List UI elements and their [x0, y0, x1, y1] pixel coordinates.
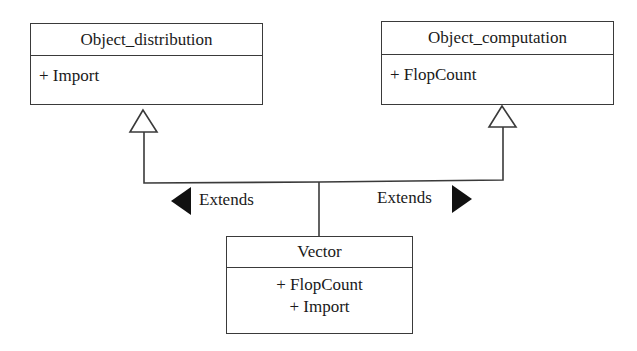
- generalization-line-left: [144, 132, 319, 183]
- generalization-line-right: [319, 127, 503, 182]
- class-members: + Import: [31, 56, 262, 86]
- relation-label-left: Extends: [199, 190, 254, 210]
- class-member: + FlopCount: [235, 274, 404, 296]
- direction-arrow-right-icon: [452, 185, 472, 213]
- class-member: + Import: [235, 296, 404, 318]
- class-name: Object_computation: [382, 22, 613, 55]
- class-member: + Import: [39, 66, 254, 86]
- relation-label-right: Extends: [377, 188, 432, 208]
- direction-arrow-left-icon: [171, 187, 191, 215]
- inheritance-triangle-icon-right: [489, 106, 516, 127]
- class-name: Vector: [227, 237, 412, 268]
- class-member: + FlopCount: [390, 65, 605, 85]
- class-box-object-computation: Object_computation + FlopCount: [381, 21, 614, 105]
- class-members: + FlopCount + Import: [227, 268, 412, 318]
- class-box-object-distribution: Object_distribution + Import: [30, 23, 263, 105]
- class-box-vector: Vector + FlopCount + Import: [226, 236, 413, 334]
- class-name: Object_distribution: [31, 24, 262, 56]
- inheritance-triangle-icon-left: [130, 110, 157, 132]
- class-members: + FlopCount: [382, 55, 613, 85]
